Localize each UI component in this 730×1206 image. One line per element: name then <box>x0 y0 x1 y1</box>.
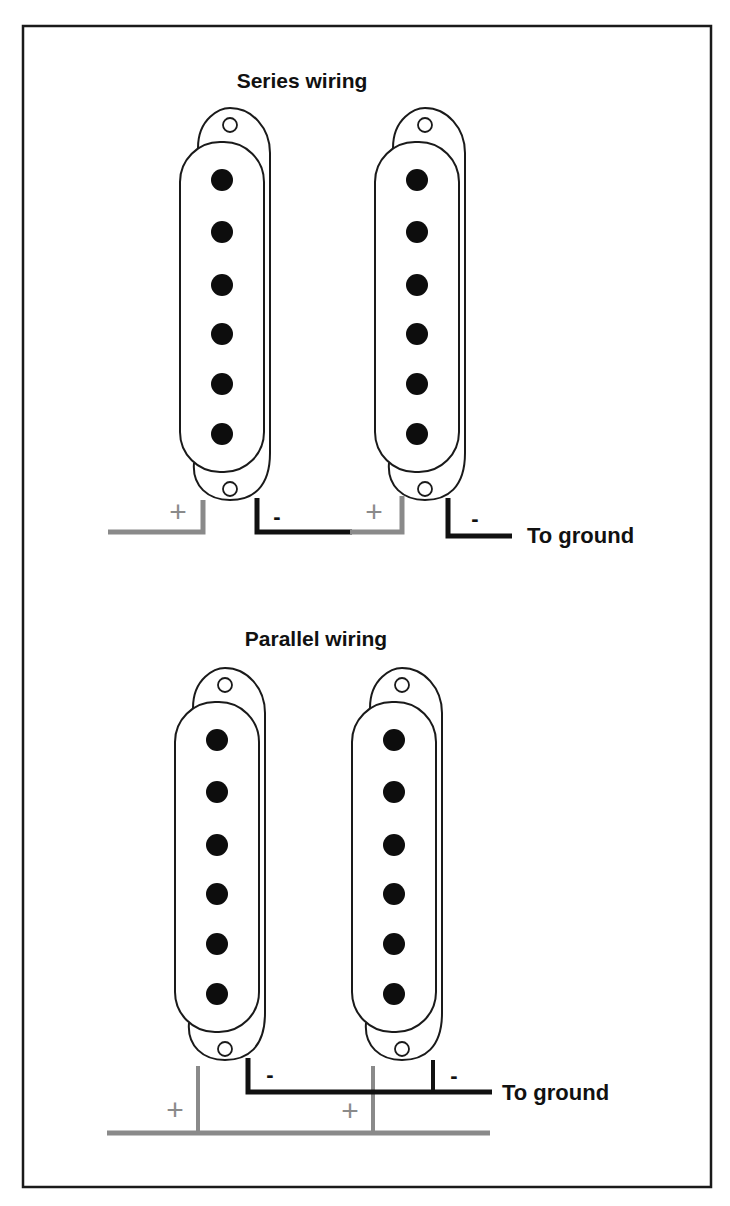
parallel-pickup-1 <box>175 668 265 1060</box>
series-pickup-2 <box>375 108 465 500</box>
series-positive-wire-1 <box>108 500 203 532</box>
parallel-negative-label-2: - <box>450 1063 457 1088</box>
parallel-negative-label-1: - <box>266 1062 273 1087</box>
parallel-positive-label-2: + <box>341 1094 359 1127</box>
parallel-title: Parallel wiring <box>245 627 387 650</box>
parallel-wiring-section: Parallel wiring + + - - To ground <box>107 627 609 1133</box>
series-pickup-1 <box>180 108 270 500</box>
series-negative-wire-1 <box>257 498 352 532</box>
parallel-ground-label: To ground <box>502 1080 609 1105</box>
series-negative-label-1: - <box>273 504 280 529</box>
wiring-diagram: Series wiring + - + - To ground Parallel… <box>0 0 730 1206</box>
parallel-pickup-2 <box>352 668 442 1060</box>
parallel-positive-label-1: + <box>166 1093 184 1126</box>
series-negative-wire-2 <box>448 498 512 536</box>
series-title: Series wiring <box>237 69 368 92</box>
series-negative-label-2: - <box>471 506 478 531</box>
series-wiring-section: Series wiring + - + - To ground <box>108 69 634 548</box>
series-positive-label-2: + <box>365 495 383 528</box>
series-ground-label: To ground <box>527 523 634 548</box>
series-positive-label-1: + <box>169 495 187 528</box>
